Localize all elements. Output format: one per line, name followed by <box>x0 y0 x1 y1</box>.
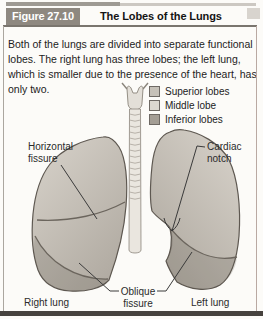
legend-label: Superior lobes <box>165 86 229 97</box>
legend-item-superior: Superior lobes <box>149 86 229 97</box>
oblique-fissure-label: Oblique fissure <box>107 286 169 310</box>
superior-lobes-swatch <box>149 86 160 97</box>
inferior-lobes-swatch <box>149 114 160 125</box>
legend: Superior lobes Middle lobe Inferior lobe… <box>149 86 229 128</box>
legend-item-inferior: Inferior lobes <box>149 114 229 125</box>
figure-border-left <box>3 26 4 311</box>
right-lung-label: Right lung <box>24 297 69 309</box>
figure-border-right <box>256 26 257 311</box>
legend-label: Inferior lobes <box>165 114 223 125</box>
horizontal-fissure-label: Horizontal fissure <box>28 141 80 165</box>
cardiac-notch-label: Cardiac notch <box>207 141 251 165</box>
left-lung-label: Left lung <box>191 297 229 309</box>
middle-lobe-swatch <box>149 100 160 111</box>
figure-panel: Figure 27.10 The Lobes of the Lungs Both… <box>0 0 263 319</box>
legend-label: Middle lobe <box>165 100 216 111</box>
figure-bottom-rule <box>0 311 263 316</box>
legend-item-middle: Middle lobe <box>149 100 229 111</box>
